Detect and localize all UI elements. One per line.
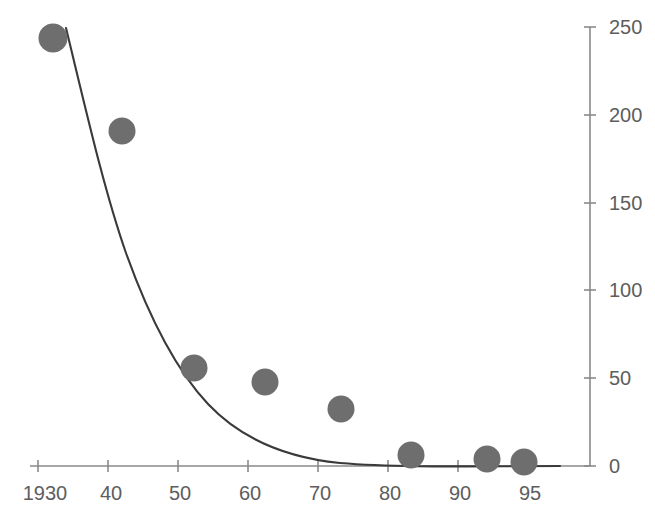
data-point (398, 442, 425, 469)
y-tick-label: 100 (609, 279, 642, 301)
x-tick-label: 60 (239, 482, 261, 504)
y-tick-label: 150 (609, 192, 642, 214)
data-point (511, 449, 538, 476)
chart-container: 1930 40 50 60 70 80 90 95 0 50 100 150 2… (0, 0, 655, 525)
data-point-markers (39, 24, 538, 476)
y-tick-label: 50 (609, 367, 631, 389)
data-point (39, 24, 68, 53)
x-tick-label: 1930 (23, 482, 68, 504)
data-point (181, 355, 208, 382)
x-tick-label: 95 (519, 482, 541, 504)
data-point (109, 118, 136, 145)
y-tick-label: 0 (609, 455, 620, 477)
data-point (328, 396, 355, 423)
y-tick-label: 250 (609, 16, 642, 38)
x-tick-label: 80 (379, 482, 401, 504)
chart-plot-area: 1930 40 50 60 70 80 90 95 0 50 100 150 2… (0, 0, 655, 525)
x-tick-label: 40 (100, 482, 122, 504)
y-tick-label: 200 (609, 104, 642, 126)
data-point (252, 369, 279, 396)
y-axis-tick-labels: 0 50 100 150 200 250 (609, 16, 642, 477)
x-tick-label: 50 (169, 482, 191, 504)
fitted-curve (66, 28, 560, 466)
x-tick-label: 90 (449, 482, 471, 504)
x-tick-label: 70 (309, 482, 331, 504)
x-axis-tick-labels: 1930 40 50 60 70 80 90 95 (23, 482, 541, 504)
data-point (474, 446, 501, 473)
